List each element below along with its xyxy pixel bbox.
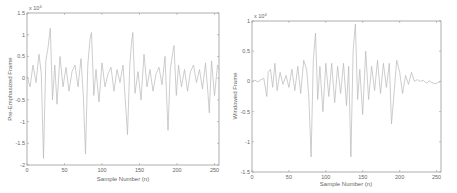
x-tick-label: 200 bbox=[395, 174, 404, 180]
windowed-frame-chart: 050100150200250 -1.5-1-0.500.51 x 104 Sa… bbox=[0, 0, 457, 193]
x-tick-label: 50 bbox=[286, 174, 292, 180]
y-tick-label: 0 bbox=[247, 78, 250, 84]
x-tick-label: 250 bbox=[432, 174, 441, 180]
x-tick-label: 0 bbox=[250, 174, 253, 180]
y-tick-label: 0.5 bbox=[242, 48, 250, 54]
x-tick-label: 150 bbox=[358, 174, 367, 180]
y-tick-label: -1.5 bbox=[241, 169, 250, 175]
axes-frame bbox=[252, 21, 441, 172]
x-tick-label: 100 bbox=[321, 174, 330, 180]
plot-area: 050100150200250 -1.5-1-0.500.51 bbox=[241, 18, 442, 180]
exponent-label: x 104 bbox=[254, 12, 267, 19]
x-axis-label: Sample Number (n) bbox=[320, 181, 372, 187]
y-tick-label: -0.5 bbox=[241, 109, 250, 115]
y-tick-label: -1 bbox=[245, 139, 250, 145]
y-tick-label: 1 bbox=[247, 18, 250, 24]
y-axis-label: Windowed Frame bbox=[232, 72, 238, 120]
